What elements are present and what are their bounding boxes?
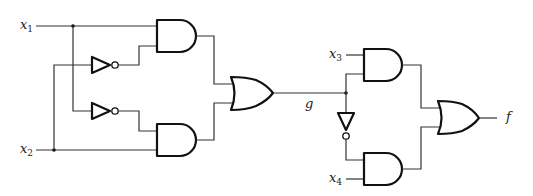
not-bubble-2 — [112, 108, 118, 114]
wire-not2-to-and2 — [118, 111, 157, 131]
wire-and1-to-or1 — [196, 36, 235, 84]
not-gate-1 — [92, 57, 110, 73]
and-gate-3 — [364, 49, 402, 81]
or-gate-2 — [438, 101, 479, 134]
or-gate-1 — [231, 77, 273, 110]
and-gate-4 — [364, 153, 402, 185]
wire-not3-to-and4 — [346, 139, 364, 160]
label-x4: x4 — [329, 171, 342, 187]
wire-and3-to-or2 — [402, 65, 441, 108]
wire-and2-to-or1 — [196, 103, 235, 140]
logic-circuit-diagram — [0, 0, 533, 196]
and-gate-2 — [157, 124, 196, 156]
wire-g-to-and3 — [346, 74, 364, 93]
label-x1: x1 — [20, 18, 33, 34]
not-gate-3 — [338, 113, 354, 130]
wire-not1-to-and1 — [118, 46, 157, 65]
label-x3: x3 — [329, 47, 342, 63]
label-g: g — [305, 97, 313, 110]
not-bubble-3 — [343, 133, 349, 139]
wire-and4-to-or2 — [402, 127, 441, 169]
label-x2: x2 — [20, 142, 33, 158]
label-f: f — [506, 110, 511, 123]
not-gate-2 — [92, 103, 110, 119]
not-bubble-1 — [112, 62, 118, 68]
and-gate-1 — [157, 20, 196, 52]
wire-x1-to-not2 — [73, 26, 92, 111]
